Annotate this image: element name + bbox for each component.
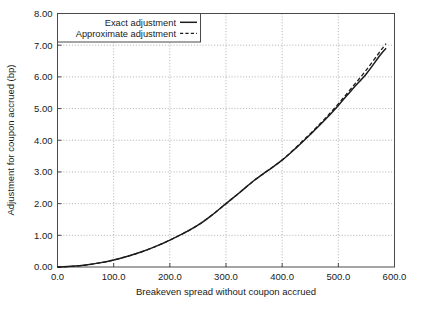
figure-background: [0, 0, 421, 311]
y-tick-label: 6.00: [34, 71, 53, 82]
y-tick-label: 7.00: [34, 40, 53, 51]
x-tick-label: 600.0: [383, 271, 407, 282]
y-tick-label: 1.00: [34, 230, 53, 241]
legend: Exact adjustment Approximate adjustment: [58, 14, 201, 43]
y-tick-label: 0.00: [34, 261, 53, 272]
x-tick-label: 400.0: [270, 271, 294, 282]
legend-label-approximate: Approximate adjustment: [76, 29, 177, 39]
x-axis-title: Breakeven spread without coupon accrued: [136, 286, 316, 297]
y-tick-label: 4.00: [34, 135, 53, 146]
legend-label-exact: Exact adjustment: [105, 18, 177, 28]
y-tick-labels: 0.001.002.003.004.005.006.007.008.00: [34, 8, 53, 273]
x-tick-label: 0.0: [51, 271, 64, 282]
y-tick-label: 2.00: [34, 198, 53, 209]
y-axis-title: Adjustment for coupon accrued (bp): [5, 64, 16, 215]
chart-figure: 0.001.002.003.004.005.006.007.008.00 0.0…: [0, 0, 421, 311]
y-tick-label: 8.00: [34, 8, 53, 19]
x-tick-label: 200.0: [158, 271, 182, 282]
x-tick-label: 500.0: [326, 271, 350, 282]
y-tick-label: 5.00: [34, 103, 53, 114]
y-tick-label: 3.00: [34, 166, 53, 177]
x-tick-label: 100.0: [102, 271, 126, 282]
x-tick-label: 300.0: [214, 271, 238, 282]
chart-svg: 0.001.002.003.004.005.006.007.008.00 0.0…: [0, 0, 421, 311]
